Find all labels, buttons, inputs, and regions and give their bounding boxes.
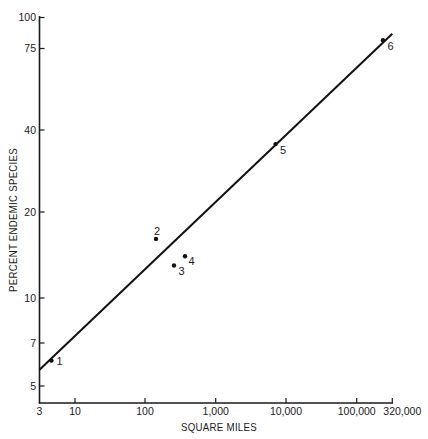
- y-axis-ticks: 5710204075100: [18, 11, 44, 392]
- data-points: 123456: [49, 38, 393, 367]
- x-tick-label: 3: [37, 405, 43, 417]
- chart-container: 5710204075100 3101001,00010,000100,00032…: [0, 0, 428, 439]
- scatter-plot: 5710204075100 3101001,00010,000100,00032…: [0, 0, 428, 439]
- x-axis-label: SQUARE MILES: [181, 421, 257, 433]
- y-tick-label: 20: [24, 206, 36, 218]
- y-tick-label: 40: [24, 124, 36, 136]
- x-tick-label: 10,000: [270, 405, 302, 417]
- x-tick-label: 1,000: [203, 405, 229, 417]
- point-label: 2: [154, 225, 160, 237]
- point-label: 3: [178, 265, 184, 277]
- point-marker: [49, 358, 53, 362]
- x-tick-label: 320,000: [383, 405, 421, 417]
- y-tick-label: 75: [24, 42, 36, 54]
- x-tick-label: 100,000: [338, 405, 376, 417]
- point-label: 5: [280, 144, 286, 156]
- x-tick-label: 100: [136, 405, 154, 417]
- data-point-1: 1: [49, 355, 62, 367]
- data-point-5: 5: [273, 142, 286, 156]
- y-tick-label: 10: [24, 292, 36, 304]
- regression-line: [40, 34, 393, 370]
- point-label: 4: [189, 255, 195, 267]
- y-tick-label: 7: [30, 337, 36, 349]
- data-point-6: 6: [381, 38, 394, 52]
- point-marker: [154, 237, 158, 241]
- point-marker: [273, 142, 277, 146]
- data-point-2: 2: [154, 225, 160, 241]
- y-tick-label: 100: [18, 11, 36, 23]
- y-tick-label: 5: [30, 380, 36, 392]
- point-marker: [183, 254, 187, 258]
- x-axis-ticks: 3101001,00010,000100,000320,000: [37, 398, 422, 417]
- y-axis-label: PERCENT ENDEMIC SPECIES: [7, 148, 19, 292]
- point-label: 6: [387, 40, 393, 52]
- point-marker: [172, 263, 176, 267]
- x-tick-label: 10: [69, 405, 81, 417]
- point-marker: [381, 38, 385, 42]
- point-label: 1: [56, 355, 62, 367]
- data-point-3: 3: [172, 263, 185, 277]
